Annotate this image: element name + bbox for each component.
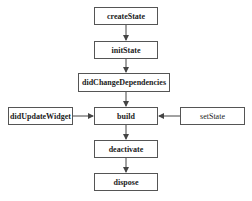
node-setstate: setState (180, 107, 245, 125)
node-initstate: initState (94, 41, 158, 59)
node-didchangedependencies: didChangeDependencies (78, 73, 170, 92)
node-build: build (94, 107, 158, 125)
arrows-layer (0, 0, 252, 201)
node-deactivate: deactivate (94, 140, 158, 158)
node-didupdatewidget: didUpdateWidget (8, 107, 73, 125)
node-createstate: createState (94, 7, 158, 25)
node-dispose: dispose (94, 173, 158, 191)
